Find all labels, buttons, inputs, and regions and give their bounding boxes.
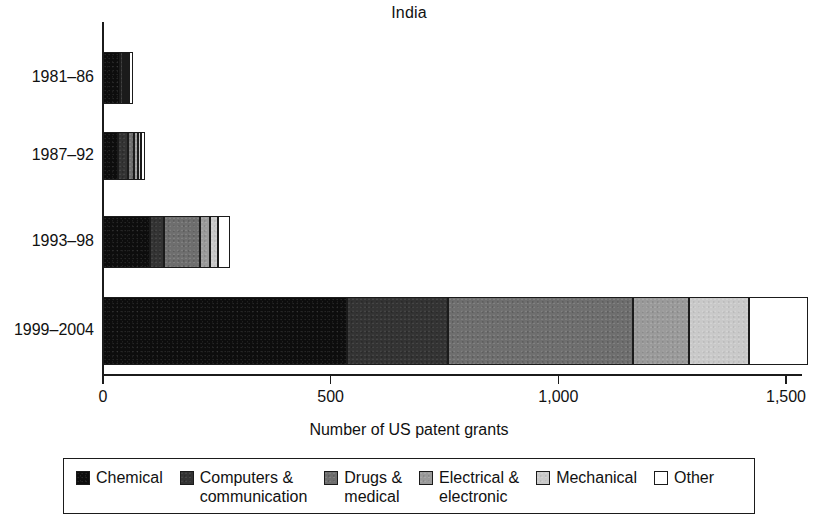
legend-item-chemical[interactable]: Chemical bbox=[76, 468, 163, 487]
legend-label: Drugs & medical bbox=[344, 468, 402, 506]
x-tick-label: 1,500 bbox=[766, 388, 806, 406]
x-tick bbox=[330, 375, 332, 384]
category-label-4: 1999–2004 bbox=[0, 321, 94, 339]
x-tick-label: 0 bbox=[99, 388, 108, 406]
plot-area: 05001,0001,500 bbox=[103, 22, 786, 375]
x-axis-line bbox=[102, 374, 802, 376]
category-label-2: 1987–92 bbox=[0, 146, 94, 164]
drugs-medical-swatch bbox=[324, 471, 338, 485]
stacked-bar[interactable] bbox=[103, 216, 230, 268]
chart-figure: India 05001,0001,500 1981–861987–921993–… bbox=[0, 0, 818, 522]
stacked-bar[interactable] bbox=[103, 297, 808, 365]
legend-label: Electrical & electronic bbox=[439, 468, 519, 506]
bar-segment-electrical-electronic[interactable] bbox=[633, 297, 690, 365]
x-tick bbox=[102, 375, 104, 384]
legend-item-computers-communication[interactable]: Computers & communication bbox=[180, 468, 308, 506]
legend-label: Chemical bbox=[96, 468, 163, 487]
bar-row bbox=[103, 216, 786, 268]
x-tick-label: 1,000 bbox=[538, 388, 578, 406]
bar-segment-chemical[interactable] bbox=[103, 297, 347, 365]
category-label-3: 1993–98 bbox=[0, 232, 94, 250]
stacked-bar[interactable] bbox=[103, 52, 133, 104]
bar-segment-drugs-medical[interactable] bbox=[164, 216, 200, 268]
bar-segment-other[interactable] bbox=[749, 297, 808, 365]
legend-item-electrical-electronic[interactable]: Electrical & electronic bbox=[419, 468, 519, 506]
bar-segment-drugs-medical[interactable] bbox=[448, 297, 633, 365]
x-axis-title: Number of US patent grants bbox=[0, 421, 818, 439]
legend-label: Mechanical bbox=[556, 468, 637, 487]
bar-segment-chemical[interactable] bbox=[103, 132, 118, 180]
x-tick-label: 500 bbox=[317, 388, 344, 406]
computers-communication-swatch bbox=[180, 471, 194, 485]
bar-segment-electrical-electronic[interactable] bbox=[200, 216, 210, 268]
bar-segment-chemical[interactable] bbox=[103, 52, 120, 104]
other-swatch bbox=[654, 471, 668, 485]
bar-segment-computers-communication[interactable] bbox=[347, 297, 448, 365]
legend-label: Other bbox=[674, 468, 714, 487]
bar-segment-mechanical[interactable] bbox=[210, 216, 218, 268]
bar-row bbox=[103, 132, 786, 180]
mechanical-swatch bbox=[536, 471, 550, 485]
stacked-bar[interactable] bbox=[103, 132, 145, 180]
x-tick bbox=[558, 375, 560, 384]
chemical-swatch bbox=[76, 471, 90, 485]
legend-item-other[interactable]: Other bbox=[654, 468, 714, 487]
bar-segment-chemical[interactable] bbox=[103, 216, 150, 268]
bar-segment-computers-communication[interactable] bbox=[118, 132, 128, 180]
chart-title: India bbox=[0, 4, 818, 22]
x-tick bbox=[785, 375, 787, 384]
legend-label: Computers & communication bbox=[200, 468, 308, 506]
bar-row bbox=[103, 297, 786, 365]
category-label-1: 1981–86 bbox=[0, 68, 94, 86]
bar-segment-other[interactable] bbox=[129, 52, 133, 104]
bar-segment-other[interactable] bbox=[141, 132, 145, 180]
bar-segment-mechanical[interactable] bbox=[689, 297, 748, 365]
legend-item-mechanical[interactable]: Mechanical bbox=[536, 468, 637, 487]
legend-item-drugs-medical[interactable]: Drugs & medical bbox=[324, 468, 402, 506]
bar-row bbox=[103, 52, 786, 104]
legend: ChemicalComputers & communicationDrugs &… bbox=[63, 458, 755, 514]
bar-segment-computers-communication[interactable] bbox=[150, 216, 164, 268]
electrical-electronic-swatch bbox=[419, 471, 433, 485]
bar-segment-other[interactable] bbox=[218, 216, 230, 268]
